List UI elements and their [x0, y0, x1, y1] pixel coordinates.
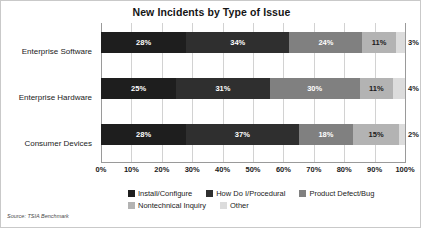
- legend-swatch-icon: [128, 202, 135, 209]
- legend-swatch-icon: [299, 190, 306, 197]
- plot-area: 28%34%24%11%3%25%31%30%11%4%28%37%18%15%…: [101, 23, 405, 163]
- category-axis-labels: Enterprise Software Enterprise Hardware …: [1, 23, 98, 163]
- bar-segment: 18%: [299, 124, 354, 145]
- legend-item[interactable]: Nontechnical Inquiry: [128, 201, 206, 210]
- legend-item[interactable]: Product Defect/Bug: [299, 189, 374, 198]
- segment-value-label: 30%: [307, 84, 322, 93]
- chart-title: New Incidents by Type of Issue: [1, 6, 421, 18]
- segment-value-label: 3%: [405, 38, 419, 47]
- legend-swatch-icon: [206, 190, 213, 197]
- x-tick-label: 100%: [395, 165, 414, 174]
- legend-swatch-icon: [128, 190, 135, 197]
- legend-label: Product Defect/Bug: [309, 189, 374, 198]
- stacked-bars: 28%34%24%11%3%25%31%30%11%4%28%37%18%15%…: [101, 23, 405, 163]
- x-axis-tick-labels: 0%10%20%30%40%50%60%70%80%90%100%: [101, 165, 405, 177]
- segment-value-label: 11%: [372, 38, 387, 47]
- segment-value-label: 11%: [369, 84, 384, 93]
- legend-label: Other: [230, 201, 249, 210]
- bar-segment: 11%: [362, 32, 395, 53]
- bar-segment: 3%: [396, 32, 405, 53]
- legend-label: Nontechnical Inquiry: [138, 201, 206, 210]
- bar-row: 28%37%18%15%2%: [101, 124, 405, 145]
- x-tick-label: 0%: [96, 165, 107, 174]
- bar-segment: 15%: [353, 124, 399, 145]
- segment-value-label: 4%: [405, 84, 419, 93]
- x-tick-label: 20%: [154, 165, 169, 174]
- segment-value-label: 31%: [215, 84, 230, 93]
- x-tick-label: 60%: [276, 165, 291, 174]
- x-tick-label: 50%: [245, 165, 260, 174]
- segment-value-label: 24%: [318, 38, 333, 47]
- bar-segment: 28%: [101, 32, 186, 53]
- segment-value-label: 25%: [131, 84, 146, 93]
- x-tick-label: 40%: [215, 165, 230, 174]
- segment-value-label: 37%: [235, 130, 250, 139]
- segment-value-label: 2%: [405, 130, 419, 139]
- legend-item[interactable]: Install/Configure: [128, 189, 192, 198]
- x-tick-label: 80%: [337, 165, 352, 174]
- bar-segment: 24%: [289, 32, 362, 53]
- segment-value-label: 34%: [230, 38, 245, 47]
- category-label: Enterprise Software: [22, 47, 92, 56]
- bar-segment: 30%: [270, 78, 360, 99]
- bar-segment: 37%: [186, 124, 298, 145]
- legend-label: How Do I/Procedural: [216, 189, 285, 198]
- bar-segment: 11%: [360, 78, 393, 99]
- bar-row: 28%34%24%11%3%: [101, 32, 405, 53]
- bar-segment: 31%: [176, 78, 269, 99]
- segment-value-label: 28%: [136, 130, 151, 139]
- segment-value-label: 18%: [318, 130, 333, 139]
- chart-container: New Incidents by Type of Issue Enterpris…: [0, 0, 421, 228]
- segment-value-label: 28%: [136, 38, 151, 47]
- bar-segment: 34%: [186, 32, 289, 53]
- legend-swatch-icon: [220, 202, 227, 209]
- bar-segment: 2%: [399, 124, 405, 145]
- chart-legend: Install/ConfigureHow Do I/ProceduralProd…: [105, 189, 405, 213]
- segment-value-label: 15%: [369, 130, 384, 139]
- legend-row: Nontechnical InquiryOther: [105, 201, 405, 210]
- bar-segment: 28%: [101, 124, 186, 145]
- x-tick-label: 90%: [367, 165, 382, 174]
- bar-row: 25%31%30%11%4%: [101, 78, 405, 99]
- bar-segment: 25%: [101, 78, 176, 99]
- legend-row: Install/ConfigureHow Do I/ProceduralProd…: [105, 189, 405, 198]
- x-tick-label: 30%: [185, 165, 200, 174]
- bar-segment: 4%: [393, 78, 405, 99]
- source-note: Source: TSIA Benchmark: [7, 213, 69, 219]
- x-tick-label: 10%: [124, 165, 139, 174]
- legend-item[interactable]: Other: [220, 201, 249, 210]
- category-label: Consumer Devices: [24, 139, 92, 148]
- x-tick-label: 70%: [306, 165, 321, 174]
- category-label: Enterprise Hardware: [19, 93, 92, 102]
- legend-label: Install/Configure: [138, 189, 192, 198]
- legend-item[interactable]: How Do I/Procedural: [206, 189, 285, 198]
